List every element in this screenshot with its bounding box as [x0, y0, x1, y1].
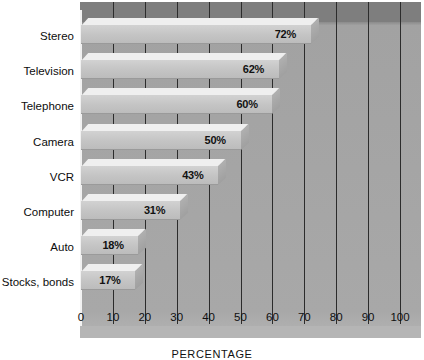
bar-value-label: 72% [275, 28, 296, 40]
x-tick-label-10: 10 [106, 311, 119, 323]
gridline-70 [304, 2, 305, 324]
x-tick-label-0: 0 [78, 311, 84, 323]
gridline-90 [368, 2, 369, 324]
gridline-80 [336, 2, 337, 324]
gridline-50 [241, 2, 242, 324]
category-label-stereo: Stereo [0, 30, 74, 42]
x-axis-title: PERCENTAGE [0, 348, 424, 360]
gridline-100 [400, 2, 401, 324]
x-tick-label-80: 80 [330, 311, 343, 323]
category-label-telephone: Telephone [0, 100, 74, 112]
gridline-60 [272, 2, 273, 324]
plot-bottom-band [80, 326, 421, 338]
x-tick-label-20: 20 [138, 311, 151, 323]
x-tick-label-70: 70 [298, 311, 311, 323]
bar-value-label: 17% [99, 274, 120, 286]
category-label-camera: Camera [0, 136, 74, 148]
bar-value-label: 43% [182, 169, 203, 181]
x-tick-label-50: 50 [234, 311, 247, 323]
bar-value-label: 50% [205, 134, 226, 146]
x-tick-label-60: 60 [266, 311, 279, 323]
category-label-television: Television [0, 65, 74, 77]
bar-value-label: 60% [236, 98, 257, 110]
bar-value-label: 62% [243, 63, 264, 75]
bar-value-label: 31% [144, 204, 165, 216]
x-tick-label-90: 90 [362, 311, 375, 323]
bar-value-label: 18% [102, 239, 123, 251]
category-label-stocks-bonds: Stocks, bonds [0, 276, 74, 288]
category-label-computer: Computer [0, 206, 74, 218]
category-label-auto: Auto [0, 241, 74, 253]
bar-chart: 72%62%60%50%43%31%18%17% StereoTelevisio… [0, 0, 424, 360]
x-tick-label-30: 30 [170, 311, 183, 323]
x-tick-label-40: 40 [202, 311, 215, 323]
category-label-vcr: VCR [0, 171, 74, 183]
x-tick-label-100: 100 [390, 311, 409, 323]
